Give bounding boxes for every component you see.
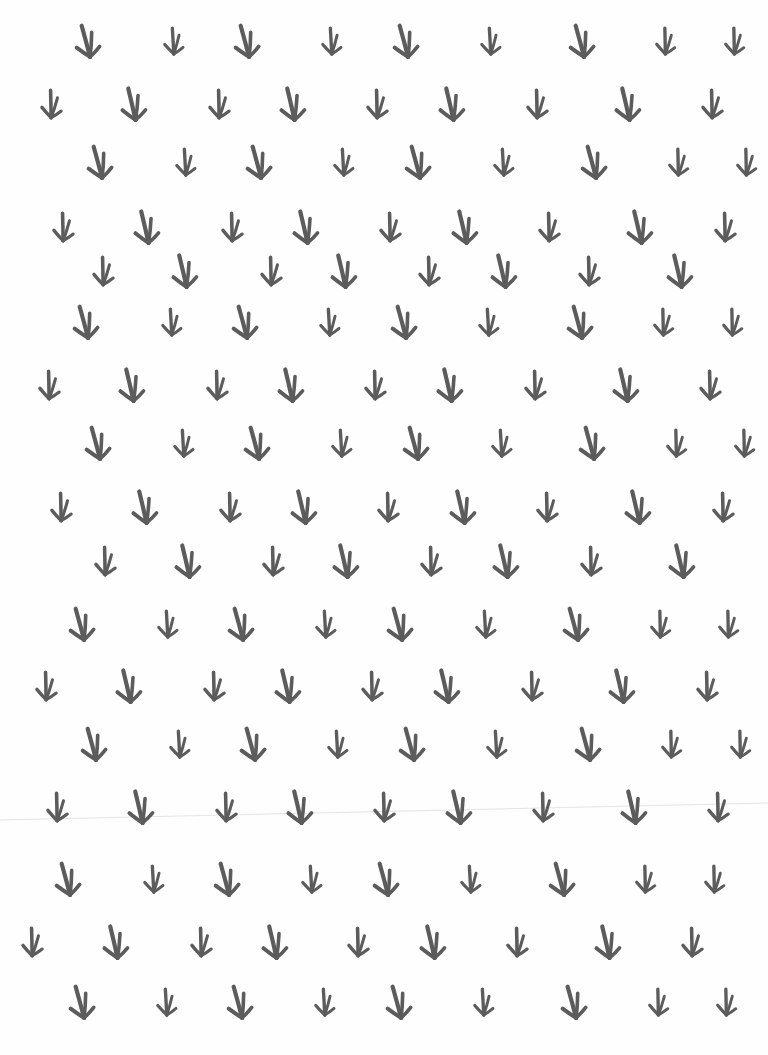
bird-footprint-icon [458, 864, 485, 896]
bird-footprint-icon [228, 303, 262, 343]
bird-footprint-icon [578, 545, 607, 579]
bird-footprint-icon [699, 88, 728, 122]
bird-footprint-icon [663, 252, 697, 292]
bird-footprint-icon [77, 725, 111, 765]
bird-footprint-icon [611, 85, 645, 125]
bird-footprint-icon [621, 488, 655, 528]
bird-footprint-icon [171, 428, 198, 460]
bird-footprint-icon [705, 791, 734, 825]
bird-footprint-icon [130, 208, 164, 248]
bird-footprint-icon [154, 987, 181, 1019]
bird-footprint-icon [206, 88, 235, 122]
bird-footprint-icon [274, 366, 308, 406]
bird-footprint-icon [299, 864, 326, 896]
bird-footprint-icon [395, 725, 429, 765]
bird-footprint-icon [223, 983, 257, 1023]
bird-footprint-icon [557, 983, 591, 1023]
bird-footprint-icon [633, 864, 660, 896]
bird-footprint-icon [563, 303, 597, 343]
bird-footprint-icon [545, 860, 579, 900]
bird-footprint-icon [161, 26, 188, 58]
bird-footprint-icon [389, 22, 423, 62]
bird-footprint-icon [697, 369, 726, 403]
bird-footprint-icon [478, 26, 505, 58]
bird-footprint-icon [471, 987, 498, 1019]
bird-footprint-icon [571, 725, 605, 765]
bird-footprint-icon [473, 609, 500, 641]
bird-footprint-icon [484, 729, 511, 761]
bird-footprint-icon [312, 987, 339, 1019]
bird-footprint-icon [728, 729, 755, 761]
bird-footprint-icon [260, 545, 289, 579]
bird-footprint-icon [242, 143, 276, 183]
bird-footprint-icon [327, 252, 361, 292]
bird-footprint-icon [576, 255, 605, 289]
bird-footprint-icon [416, 255, 445, 289]
bird-footprint-icon [287, 488, 321, 528]
bird-footprint-icon [19, 926, 48, 960]
bird-footprint-icon [317, 307, 344, 339]
bird-footprint-icon [446, 488, 480, 528]
bird-footprint-icon [712, 211, 741, 245]
bird-footprint-icon [128, 488, 162, 528]
bird-footprint-icon [81, 424, 115, 464]
bird-footprint-icon [401, 143, 435, 183]
bird-footprint-icon [44, 791, 73, 825]
bird-footprint-icon [448, 208, 482, 248]
bird-footprint-icon [240, 424, 274, 464]
bird-footprint-icon [722, 26, 749, 58]
bird-footprint-icon [524, 88, 553, 122]
bird-footprint-icon [433, 366, 467, 406]
bird-footprint-icon [71, 22, 105, 62]
bird-footprint-icon [319, 26, 346, 58]
bird-footprint-icon [171, 542, 205, 582]
bird-footprint-icon [371, 791, 400, 825]
bird-footprint-icon [289, 208, 323, 248]
bird-footprint-icon [710, 491, 739, 525]
bird-footprint-icon [534, 491, 563, 525]
bird-footprint-icon [476, 307, 503, 339]
bird-footprint-icon [383, 605, 417, 645]
bird-footprint-icon [38, 88, 67, 122]
bird-footprint-icon [702, 864, 729, 896]
bird-footprint-icon [141, 864, 168, 896]
bird-footprint-icon [99, 923, 133, 963]
bird-footprint-icon [313, 609, 340, 641]
bird-footprint-icon [491, 147, 518, 179]
bird-footprint-icon [112, 667, 146, 707]
bird-footprint-icon [359, 670, 388, 704]
bird-footprint-icon [276, 85, 310, 125]
bird-footprint-icon [204, 369, 233, 403]
bird-footprint-icon [90, 255, 119, 289]
bird-footprint-icon [173, 147, 200, 179]
bird-footprint-icon [377, 211, 406, 245]
bird-footprint-icon [659, 729, 686, 761]
bird-footprint-icon [387, 303, 421, 343]
bird-footprint-icon [331, 147, 358, 179]
bird-footprint-icon [219, 211, 248, 245]
bird-footprint-icon [418, 545, 447, 579]
bird-footprint-icon [159, 307, 186, 339]
bird-footprint-icon [530, 791, 559, 825]
bird-footprint-icon [666, 147, 693, 179]
bird-footprint-icon [522, 369, 551, 403]
bird-footprint-icon [258, 923, 292, 963]
bird-footprint-icon [115, 366, 149, 406]
bird-footprint-icon [577, 143, 611, 183]
bird-footprint-icon [329, 542, 363, 582]
bird-footprint-icon [591, 923, 625, 963]
bird-footprint-icon [382, 983, 416, 1023]
bird-footprint-icon [283, 788, 317, 828]
bird-footprint-icon [51, 860, 85, 900]
bird-footprint-icon [536, 211, 565, 245]
bird-footprint-icon [329, 428, 356, 460]
bird-footprint-icon [155, 609, 182, 641]
bird-footprint-icon [345, 926, 374, 960]
bird-footprint-icon [565, 22, 599, 62]
bird-footprint-icon [48, 491, 77, 525]
bird-footprint-icon [224, 605, 258, 645]
scanned-paper-sheet [0, 0, 768, 1055]
bird-footprint-icon [188, 926, 217, 960]
bird-footprint-icon [236, 725, 270, 765]
bird-footprint-icon [167, 729, 194, 761]
